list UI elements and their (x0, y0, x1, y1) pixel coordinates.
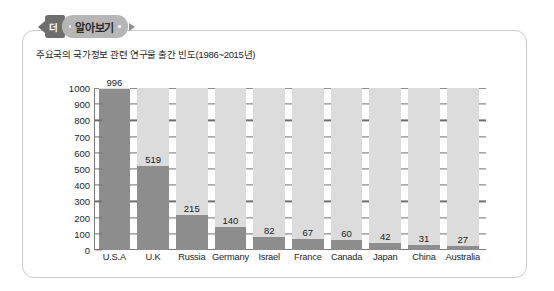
x-axis-tick-label: Germany (211, 252, 250, 262)
y-axis-tick-label: 400 (74, 180, 90, 191)
column-background-band (408, 88, 440, 250)
y-axis-tick-mark (95, 120, 102, 121)
bar-chart: 01002003004005006007008009001000 9965192… (36, 76, 496, 266)
badge-dot-left-icon (69, 25, 72, 28)
bar-value-label: 82 (250, 225, 289, 236)
bar-column[interactable]: 215 (172, 88, 211, 250)
column-background-band (331, 88, 363, 250)
bar-column[interactable]: 140 (211, 88, 250, 250)
y-axis-tick-mark (95, 217, 102, 218)
y-axis-tick-mark (95, 185, 102, 186)
y-axis-tick-label: 0 (85, 245, 90, 256)
y-axis-labels: 01002003004005006007008009001000 (38, 88, 90, 250)
bar[interactable] (369, 243, 401, 250)
x-axis-tick-label: China (405, 252, 444, 262)
bar[interactable] (176, 215, 208, 250)
x-axis-tick-label: Israel (250, 252, 289, 262)
y-axis-tick-label: 300 (74, 196, 90, 207)
bar-value-label: 996 (95, 77, 134, 88)
bar-column[interactable]: 67 (289, 88, 328, 250)
column-background-band (292, 88, 324, 250)
x-axis-tick-label: U.S.A (95, 252, 134, 262)
bar-column[interactable]: 27 (443, 88, 482, 250)
y-axis-tick-mark (95, 152, 102, 153)
figure-root: 더 알아보기 주요국의 국가정보 관련 연구물 출간 빈도(1986~2015년… (0, 0, 554, 291)
bar[interactable] (447, 246, 479, 250)
chart-subtitle: 주요국의 국가정보 관련 연구물 출간 빈도(1986~2015년) (36, 47, 255, 61)
y-axis-tick-mark (95, 168, 102, 169)
y-axis-tick-mark (95, 249, 102, 250)
badge-main: 알아보기 (62, 15, 128, 38)
x-axis-tick-label: Australia (443, 252, 482, 262)
x-axis-tick-label: Canada (327, 252, 366, 262)
bar-column[interactable]: 42 (366, 88, 405, 250)
y-axis-tick-mark (95, 104, 102, 105)
bar-column[interactable]: 31 (405, 88, 444, 250)
bar-column[interactable]: 82 (250, 88, 289, 250)
bar-value-label: 31 (405, 233, 444, 244)
bar-value-label: 67 (289, 227, 328, 238)
badge-dot-right-icon (118, 25, 121, 28)
x-axis-tick-label: Japan (366, 252, 405, 262)
bar-column[interactable]: 60 (327, 88, 366, 250)
column-background-band (369, 88, 401, 250)
y-axis-tick-label: 1000 (69, 83, 90, 94)
section-badge: 더 알아보기 (38, 15, 135, 38)
y-axis-tick-label: 600 (74, 147, 90, 158)
bar-value-label: 27 (443, 234, 482, 245)
bar-column[interactable]: 519 (134, 88, 173, 250)
plot-area: 01002003004005006007008009001000 9965192… (94, 88, 482, 250)
y-axis-tick-label: 200 (74, 212, 90, 223)
bar[interactable] (292, 239, 324, 250)
bar[interactable] (137, 166, 169, 250)
badge-tail-icon (129, 23, 135, 31)
x-axis-tick-label: Russia (172, 252, 211, 262)
y-axis-tick-mark (95, 136, 102, 137)
x-axis-labels: U.S.AU.KRussiaGermanyIsraelFranceCanadaJ… (95, 252, 482, 262)
y-axis-tick-label: 500 (74, 164, 90, 175)
bar-value-label: 519 (134, 154, 173, 165)
y-axis-tick-label: 100 (74, 228, 90, 239)
y-axis-tick-label: 800 (74, 115, 90, 126)
y-axis-tick-label: 900 (74, 99, 90, 110)
bar[interactable] (408, 245, 440, 250)
bar-value-label: 60 (327, 228, 366, 239)
badge-main-label: 알아보기 (75, 19, 114, 35)
bar[interactable] (331, 240, 363, 250)
column-background-band (447, 88, 479, 250)
plot-inner: 01002003004005006007008009001000 9965192… (94, 88, 482, 250)
x-axis-tick-label: U.K (134, 252, 173, 262)
bar-value-label: 42 (366, 231, 405, 242)
bar-columns: 996519215140826760423127 (95, 88, 482, 250)
bar[interactable] (253, 237, 285, 250)
bar[interactable] (99, 89, 131, 250)
bar-value-label: 215 (172, 203, 211, 214)
y-axis-tick-label: 700 (74, 131, 90, 142)
x-axis-tick-label: France (289, 252, 328, 262)
bar[interactable] (215, 227, 247, 250)
y-axis-tick-mark (95, 233, 102, 234)
badge-arrow-icon (38, 21, 45, 33)
bar-value-label: 140 (211, 215, 250, 226)
y-axis-tick-mark (95, 201, 102, 202)
